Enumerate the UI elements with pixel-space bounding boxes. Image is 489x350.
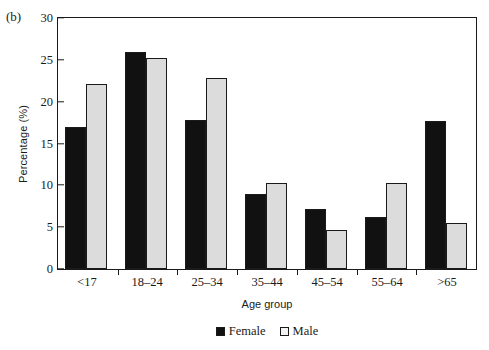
bar — [206, 78, 227, 269]
legend-label: Female — [229, 325, 266, 338]
y-tick-label: 25 — [41, 54, 54, 67]
y-tick-label: 10 — [41, 179, 54, 192]
x-tick-mark — [177, 269, 178, 275]
bar-group — [58, 18, 118, 269]
x-tick-label: <17 — [57, 276, 117, 294]
legend-swatch-icon — [216, 327, 225, 336]
x-tick-mark — [416, 269, 417, 275]
bar-series-container — [58, 18, 476, 269]
x-tick-label: 25–34 — [177, 276, 237, 294]
legend-entry: Male — [280, 325, 319, 338]
x-tick-label: 55–64 — [357, 276, 417, 294]
bar — [86, 84, 107, 269]
x-tick-label: >65 — [417, 276, 477, 294]
bar — [146, 58, 167, 269]
legend-label: Male — [293, 325, 319, 338]
bar-group — [298, 18, 358, 269]
x-tick-mark — [118, 269, 119, 275]
x-tick-label: 45–54 — [297, 276, 357, 294]
bar — [425, 121, 446, 269]
bar-group — [358, 18, 418, 269]
plot-area: 051015202530 — [57, 17, 477, 270]
x-tick-mark — [357, 269, 358, 275]
bar-group — [418, 18, 478, 269]
y-tick-label: 5 — [47, 221, 53, 234]
bar — [245, 194, 266, 269]
bar — [125, 52, 146, 269]
legend-swatch-icon — [280, 327, 289, 336]
legend-entry: Female — [216, 325, 266, 338]
y-axis-title: Percentage (%) — [16, 17, 30, 270]
x-tick-label: 18–24 — [117, 276, 177, 294]
bar — [266, 183, 287, 269]
bar — [305, 209, 326, 269]
y-axis-title-text: Percentage (%) — [17, 105, 29, 183]
bar — [386, 183, 407, 269]
x-tick-mark — [237, 269, 238, 275]
x-tick-mark — [297, 269, 298, 275]
bar-group — [238, 18, 298, 269]
y-tick-label: 20 — [41, 95, 54, 108]
x-axis-tick-labels: <1718–2425–3435–4445–5455–64>65 — [57, 276, 477, 294]
bar-group — [178, 18, 238, 269]
x-axis-title: Age group — [57, 299, 477, 310]
chart-legend: FemaleMale — [57, 325, 477, 338]
x-tick-label: 35–44 — [237, 276, 297, 294]
y-tick-label: 15 — [41, 137, 54, 150]
bar — [185, 120, 206, 269]
bar — [365, 217, 386, 269]
y-tick-label: 30 — [41, 12, 54, 25]
bar-chart-figure: (b) Percentage (%) 051015202530 <1718–24… — [0, 0, 489, 350]
y-tick-label: 0 — [47, 263, 53, 276]
bar — [65, 127, 86, 269]
bar — [446, 223, 467, 269]
bar-group — [118, 18, 178, 269]
bar — [326, 230, 347, 269]
